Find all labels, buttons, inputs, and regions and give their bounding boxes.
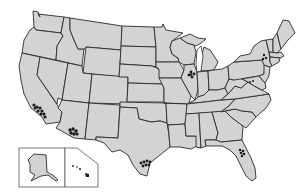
state-north-dakota [121, 26, 156, 47]
hawaii-inset [65, 148, 98, 187]
us-map [0, 0, 304, 193]
state-colorado [89, 74, 128, 104]
state-iowa [156, 62, 184, 78]
state-south-dakota [120, 46, 156, 67]
state-florida [205, 140, 256, 181]
hawaii-inset-box [65, 148, 98, 187]
state-arkansas [164, 103, 187, 125]
alaska-inset [19, 148, 65, 187]
state-wyoming [83, 47, 121, 77]
state-montana [70, 18, 122, 50]
state-kansas [127, 83, 164, 102]
island-oahu [76, 166, 78, 168]
island-maui [79, 168, 81, 170]
state-maine [277, 20, 295, 49]
state-new-mexico [85, 103, 120, 140]
island-kauai [72, 165, 74, 167]
state-washington [33, 11, 64, 33]
state-connecticut [270, 57, 280, 66]
